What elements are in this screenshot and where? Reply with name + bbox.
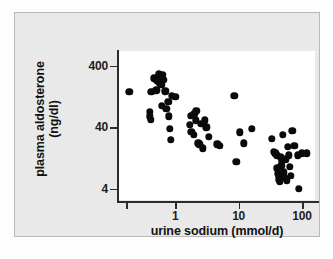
x-axis-tick-label: 1 (172, 209, 178, 223)
data-point (199, 145, 206, 152)
y-axis-tick (110, 66, 117, 68)
y-axis-title-line-1: plasma aldosterone (33, 44, 47, 194)
y-axis-tick (110, 127, 117, 129)
data-point (279, 131, 286, 138)
data-point (303, 150, 310, 157)
data-point (166, 125, 173, 132)
x-axis-title: urine sodium (mmol/d) (119, 224, 315, 238)
data-point (233, 158, 240, 165)
data-point (295, 185, 302, 192)
y-axis-tick-label: 40 (95, 120, 108, 134)
y-axis-tick-label: 400 (89, 59, 108, 73)
y-axis-tick-labels: 440400 (67, 13, 108, 238)
data-point (286, 163, 293, 170)
data-point (147, 116, 154, 123)
data-point (289, 127, 296, 134)
data-point (162, 105, 169, 112)
data-point (290, 142, 297, 149)
figure-panel: 110100 440400 urine sodium (mmol/d) plas… (14, 12, 320, 237)
y-axis-tick-label: 4 (102, 182, 108, 196)
data-point (190, 131, 197, 138)
figure-root: 110100 440400 urine sodium (mmol/d) plas… (0, 0, 333, 259)
data-point (167, 136, 174, 143)
y-axis-title-line-2: (ng/dl) (47, 44, 61, 194)
y-axis-tick (110, 189, 117, 191)
data-point (205, 133, 212, 140)
data-point (193, 107, 200, 114)
data-point (165, 113, 172, 120)
data-point (126, 88, 133, 95)
data-point (203, 124, 210, 131)
x-axis-tick-label: 100 (292, 209, 311, 223)
data-point (216, 142, 223, 149)
plot-canvas (119, 51, 315, 200)
data-point (160, 76, 167, 83)
x-axis-line (117, 201, 319, 203)
data-point (285, 151, 292, 158)
data-point (236, 129, 243, 136)
data-point (171, 93, 178, 100)
x-axis-tick-minor (126, 203, 128, 209)
data-point (248, 125, 255, 132)
x-axis-tick-label: 10 (232, 209, 245, 223)
data-point (268, 135, 275, 142)
y-axis-line (117, 50, 119, 202)
y-axis-title: plasma aldosterone (ng/dl) (33, 44, 61, 194)
data-point (240, 139, 247, 146)
data-point (231, 92, 238, 99)
data-point (287, 172, 294, 179)
